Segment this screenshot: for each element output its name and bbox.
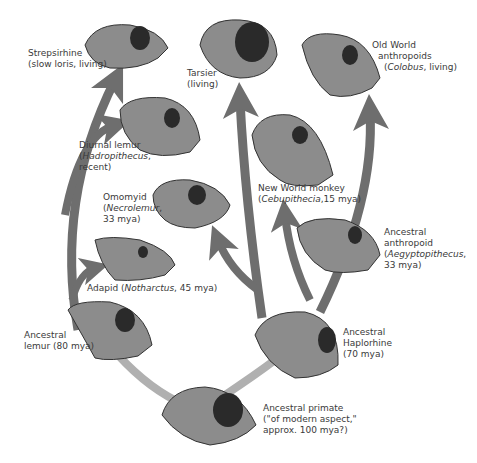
genus-name: Notharctus xyxy=(125,283,175,293)
label-line: Ancestral xyxy=(343,327,392,338)
label-line: (70 mya) xyxy=(343,349,392,360)
text: ,15 mya) xyxy=(321,194,361,204)
label-line: Omomyid xyxy=(103,192,162,203)
label-line: Tarsier xyxy=(187,68,218,79)
label-tarsier: Tarsier (living) xyxy=(187,68,218,90)
label-line: approx. 100 mya?) xyxy=(263,425,357,436)
genus-name: Colobus xyxy=(388,62,424,72)
skull-ancestral-anthropoid xyxy=(297,219,380,273)
skull-new-world xyxy=(252,115,333,186)
genus-name: Aegyptopithecus xyxy=(388,249,464,259)
label-old-world: Old World anthropoids (Colobus, living) xyxy=(372,40,457,73)
label-line: (Aegyptopithecus, xyxy=(384,249,466,260)
skull-ancestral-primate xyxy=(162,387,256,445)
label-line: Ancestral xyxy=(24,330,94,341)
label-line: (Hadropithecus, xyxy=(79,151,151,162)
label-line: (slow loris, living) xyxy=(28,59,107,70)
label-line: anthropoids xyxy=(372,51,457,62)
label-line: anthropoid xyxy=(384,238,466,249)
label-line: ("of modern aspect," xyxy=(263,414,357,425)
label-line: Strepsirhine xyxy=(28,48,107,59)
label-line: recent) xyxy=(79,162,151,173)
label-line: Old World xyxy=(372,40,457,51)
label-ancestral-primate: Ancestral primate ("of modern aspect," a… xyxy=(263,403,357,436)
text: , xyxy=(148,151,151,161)
text: , xyxy=(463,249,466,259)
label-line: (Cebupithecia,15 mya) xyxy=(258,194,361,205)
text: , 45 mya) xyxy=(174,283,217,293)
label-new-world: New World monkey (Cebupithecia,15 mya) xyxy=(258,183,361,205)
text: , xyxy=(159,203,162,213)
label-line: (Colobus, living) xyxy=(372,62,457,73)
primate-phylogeny-diagram: Strepsirhine (slow loris, living) Tarsie… xyxy=(0,0,477,463)
label-strepsirhine: Strepsirhine (slow loris, living) xyxy=(28,48,107,70)
genus-name: Hadropithecus xyxy=(83,151,149,161)
label-line: Ancestral primate xyxy=(263,403,357,414)
label-line: Diurnal lemur xyxy=(79,140,151,151)
label-line: Haplorhine xyxy=(343,338,392,349)
skull-omomyid xyxy=(153,180,230,228)
label-line: lemur (80 mya) xyxy=(24,341,94,352)
genus-name: Cebupithecia xyxy=(262,194,321,204)
label-ancestral-anthropoid: Ancestral anthropoid (Aegyptopithecus, 3… xyxy=(384,227,466,271)
label-omomyid: Omomyid (Necrolemur, 33 mya) xyxy=(103,192,162,225)
label-line: (Necrolemur, xyxy=(103,203,162,214)
label-ancestral-haplorhine: Ancestral Haplorhine (70 mya) xyxy=(343,327,392,360)
label-line: Ancestral xyxy=(384,227,466,238)
genus-name: Necrolemur xyxy=(107,203,160,213)
label-line: 33 mya) xyxy=(384,260,466,271)
text: , living) xyxy=(423,62,456,72)
label-ancestral-lemur: Ancestral lemur (80 mya) xyxy=(24,330,94,352)
label-line: 33 mya) xyxy=(103,214,162,225)
skull-old-world xyxy=(302,34,380,97)
skull-adapid xyxy=(95,238,175,281)
text: Adapid ( xyxy=(87,283,125,293)
branch-primate-to-haplorhine xyxy=(225,360,275,395)
arrow-to-old-world xyxy=(320,112,370,312)
label-line: New World monkey xyxy=(258,183,361,194)
label-line: (living) xyxy=(187,79,218,90)
label-adapid: Adapid (Notharctus, 45 mya) xyxy=(87,283,217,294)
label-diurnal-lemur: Diurnal lemur (Hadropithecus, recent) xyxy=(79,140,151,173)
